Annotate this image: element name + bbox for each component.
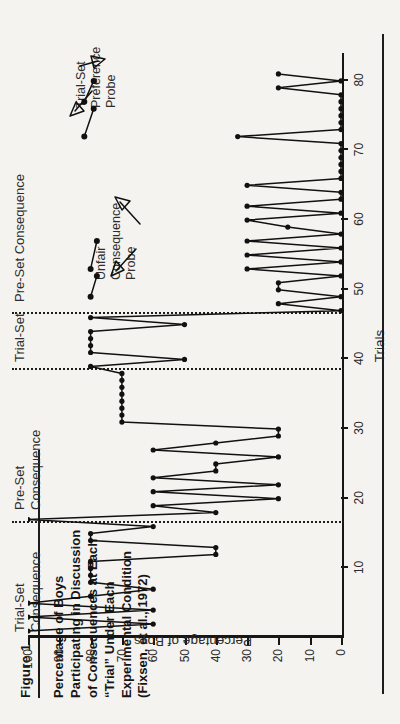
y-tick-label: 50 [178, 649, 192, 662]
chart-series-layer [28, 38, 360, 638]
y-tick-label: 0 [334, 649, 348, 656]
y-tick-label: 70 [115, 649, 129, 662]
y-tick-label: 90 [52, 649, 66, 662]
y-tick [122, 638, 124, 645]
x-tick [341, 288, 348, 290]
y-tick [278, 638, 280, 645]
phase-separator [12, 368, 344, 370]
phase-trial-set-consequence: Trial-Set Consequence [12, 552, 44, 632]
x-tick [341, 218, 348, 220]
phase-pre-set-consequence-1: Pre-Set Consequence [12, 430, 44, 510]
page-rule [382, 34, 384, 694]
x-tick-label: 70 [352, 143, 366, 156]
x-tick [341, 497, 348, 499]
y-tick [91, 638, 93, 645]
x-tick-label: 20 [352, 491, 366, 504]
x-tick [341, 566, 348, 568]
y-tick-label: 30 [240, 649, 254, 662]
x-tick-label: 50 [352, 282, 366, 295]
x-tick-label: 10 [352, 561, 366, 574]
x-axis-line [342, 53, 345, 638]
x-tick-label: 80 [352, 73, 366, 86]
x-tick [341, 149, 348, 151]
x-tick [341, 357, 348, 359]
phase-separator [12, 521, 344, 523]
y-tick-label: 80 [84, 649, 98, 662]
page-background: Figure 1 Percentage of Boys Participatin… [0, 0, 400, 724]
x-tick-label: 60 [352, 212, 366, 225]
y-tick-label: 20 [271, 649, 285, 662]
y-tick-label: 100 [21, 649, 35, 669]
x-tick [341, 79, 348, 81]
data-polyline [28, 71, 344, 633]
y-tick [28, 638, 30, 645]
x-tick [341, 427, 348, 429]
y-tick-label: 40 [209, 649, 223, 662]
rotated-figure-container: Figure 1 Percentage of Boys Participatin… [0, 0, 400, 724]
y-tick [310, 638, 312, 645]
phase-separator [12, 312, 344, 314]
x-axis-title: Trials [372, 330, 387, 363]
x-tick-label: 40 [352, 352, 366, 365]
figure-sheet: Figure 1 Percentage of Boys Participatin… [0, 0, 400, 724]
x-tick-label: 30 [352, 421, 366, 434]
y-tick [59, 638, 61, 645]
y-tick [341, 638, 343, 645]
y-axis-title: Percentage of Boys [134, 634, 252, 649]
phase-trial-set: Trial-Set [12, 313, 28, 362]
chart-plot-area: 100 90 80 70 60 50 40 30 20 10 0 Percent… [28, 38, 358, 638]
annotation-trial-set-preference-probe: Trial-Set Preference Probe [74, 47, 119, 108]
annotation-unfair-consequence-probe: Unfair Consequence Probe [94, 203, 139, 280]
y-tick-label: 60 [146, 649, 160, 662]
y-tick-label: 10 [303, 649, 317, 662]
phase-pre-set-consequence-2: Pre-Set Consequence [12, 174, 28, 302]
